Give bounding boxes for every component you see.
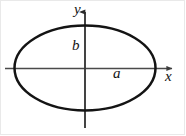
ellipse-diagram: y b a x (0, 0, 186, 136)
ellipse-diagram-canvas (0, 0, 186, 136)
semi-minor-axis-label: b (72, 38, 80, 53)
x-axis-label: x (165, 69, 172, 84)
y-axis-label: y (74, 2, 81, 17)
semi-major-axis-label: a (113, 66, 121, 81)
